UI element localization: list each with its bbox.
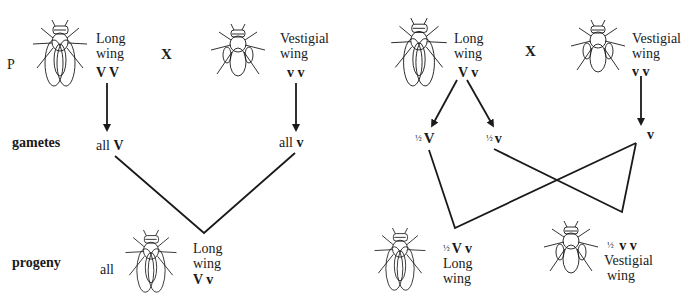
row-label-progeny: progeny [12,255,61,270]
vestigial-wing-fly-icon [205,22,271,82]
long-wing-fly-icon [367,222,433,298]
right-gamete-half-v: ½v [486,131,502,146]
long-wing-fly-icon [118,225,184,299]
left-parent1-label: Long wing V V [96,31,126,80]
left-gamete2: all v [279,135,304,150]
right-progeny2-label: ½ v v Vestigial wing [604,238,653,283]
long-wing-fly-icon [383,15,455,91]
half-V-to-progeny1-line [429,143,636,228]
right-gamete-half-V: ½V [415,131,435,146]
left-parent2-label: Vestigial wing v v [280,31,329,80]
genotype: v v [287,65,329,80]
row-label-parents: P [7,57,15,72]
left-progeny-label: Long wing V v [193,241,223,287]
gamete-to-progeny-lines [115,153,295,233]
genotype: V v [193,272,223,287]
genotype: ½ v v [607,238,653,253]
genotype: v v [632,64,681,79]
genotype: V V [96,65,126,80]
right-gamete-v: v [647,127,654,142]
vestigial-wing-fly-icon [565,17,631,79]
left-progeny-prefix: all [100,262,114,277]
vestigial-wing-fly-icon [538,215,604,283]
cross-symbol-right: X [525,44,536,59]
cross-symbol-left: X [161,47,172,62]
genotype: ½V v [443,241,473,256]
left-gamete1: all V [96,138,124,153]
right-parent2-label: Vestigial wing v v [632,31,681,79]
right-parent1-label: Long wing V v [454,31,484,80]
row-label-gametes: gametes [12,135,60,150]
arrow-parent1-to-half-v [467,80,492,124]
genotype: V v [458,65,484,80]
right-progeny1-label: ½V v Long wing [443,241,473,286]
long-wing-fly-icon [25,18,95,90]
